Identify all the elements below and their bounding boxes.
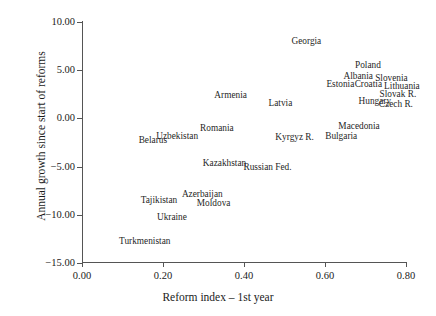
x-tick-label: 0.80	[376, 270, 436, 282]
x-tick-mark	[325, 262, 326, 267]
data-point-label: Moldova	[197, 198, 231, 208]
data-point-label: Ukraine	[157, 212, 187, 222]
data-point-label: Kyrgyz R.	[275, 132, 314, 142]
data-point-label: Tajikistan	[141, 195, 178, 205]
x-tick-mark	[244, 262, 245, 267]
y-tick-mark	[77, 118, 82, 119]
data-point-label: Georgia	[291, 36, 321, 46]
data-point-label: Kazakhstan	[203, 158, 246, 168]
data-point-label: Macedonia	[338, 121, 379, 131]
data-point-label: Estonia	[326, 79, 354, 89]
data-point-label: Bulgaria	[325, 131, 357, 141]
data-point-label: Azerbaijan	[182, 189, 223, 199]
y-axis-title: Annual growth since start of reforms	[35, 11, 47, 261]
data-point-label: Czech R.	[379, 99, 413, 109]
data-point-label: Armenia	[214, 90, 247, 100]
data-point-label: Belarus	[139, 135, 167, 145]
y-axis-line	[82, 21, 83, 263]
x-tick-mark	[163, 262, 164, 267]
x-tick-label: 0.00	[52, 270, 112, 282]
scatter-plot-figure: 10.005.000.00−5.00−10.00−15.00 0.000.200…	[0, 0, 436, 316]
x-tick-mark	[82, 262, 83, 267]
data-point-label: Latvia	[269, 98, 293, 108]
data-point-label: Russian Fed.	[243, 162, 291, 172]
y-tick-mark	[77, 167, 82, 168]
y-tick-mark	[77, 22, 82, 23]
data-point-label: Turkmenistan	[119, 236, 170, 246]
x-tick-label: 0.20	[133, 270, 193, 282]
data-point-label: Romania	[200, 123, 234, 133]
x-tick-label: 0.40	[214, 270, 274, 282]
y-tick-mark	[77, 215, 82, 216]
data-point-label: Poland	[355, 60, 381, 70]
x-tick-label: 0.60	[295, 270, 355, 282]
data-point-label: Croatia	[355, 79, 382, 89]
y-tick-mark	[77, 70, 82, 71]
x-tick-mark	[406, 262, 407, 267]
x-axis-title: Reform index – 1st year	[0, 291, 436, 303]
